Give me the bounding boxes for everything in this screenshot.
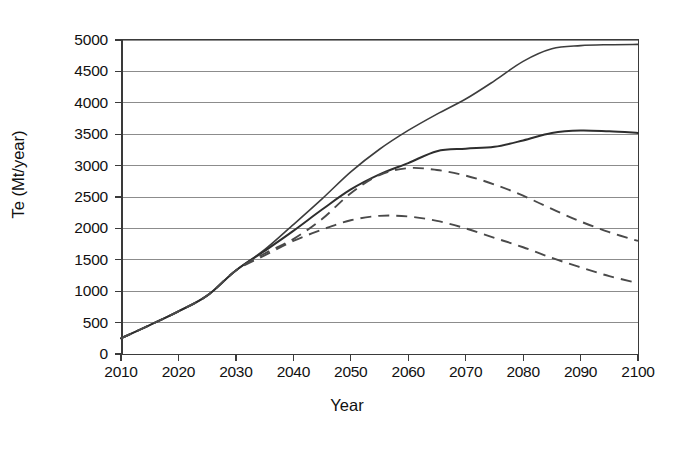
series-line-middle-solid [121,130,638,338]
xaxis-title: Year [0,396,694,415]
series-line-upper-solid [121,44,638,338]
series-line-lower-dashed [121,216,638,339]
curve-layer [0,0,694,449]
series-line-upper-dashed [121,168,638,338]
chart-figure: Te (Mt/year) 050010001500200025003000350… [0,0,694,449]
